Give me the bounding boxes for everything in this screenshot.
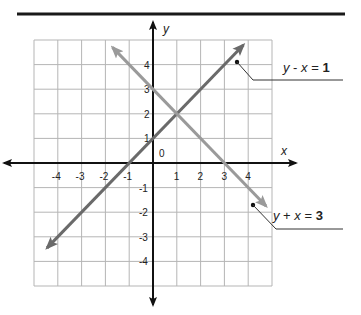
x-tick-label: -3 — [76, 171, 85, 182]
y-tick-label: -4 — [139, 256, 148, 267]
y-tick-label: 4 — [144, 60, 150, 71]
x-tick-label: 1 — [174, 171, 180, 182]
x-tick-label: -1 — [123, 171, 132, 182]
line-chart: xy -4-3-2-112344321-1-2-3-40 y - x = 1y … — [0, 0, 361, 315]
x-tick-label: 3 — [221, 171, 227, 182]
x-tick-label: 4 — [245, 171, 251, 182]
y-axis-label: y — [162, 22, 170, 36]
x-axis-label: x — [280, 144, 288, 158]
series-line — [113, 47, 267, 206]
y-tick-label: -2 — [139, 207, 148, 218]
equation-callouts: y - x = 1y + x = 3 — [235, 60, 343, 229]
equation-label: y - x = 1 — [282, 60, 330, 75]
x-tick-label: -2 — [99, 171, 108, 182]
series-lines — [47, 45, 266, 248]
origin-label: 0 — [159, 148, 165, 159]
x-tick-label: -4 — [52, 171, 61, 182]
y-tick-label: 2 — [144, 109, 150, 120]
y-tick-label: -1 — [139, 183, 148, 194]
x-tick-label: 2 — [198, 171, 204, 182]
y-tick-label: -3 — [139, 232, 148, 243]
equation-label: y + x = 3 — [272, 208, 323, 223]
